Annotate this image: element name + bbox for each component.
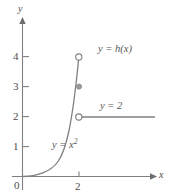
x-axis-arrowhead [150, 173, 157, 179]
label-y-equals-x-squared: y = x2 [52, 140, 77, 151]
y-axis [19, 17, 29, 190]
x-tick-label-2: 2 [75, 181, 81, 192]
y-tick-label-2: 2 [13, 111, 19, 122]
y-tick-label-4: 4 [13, 51, 19, 62]
open-circle-point-2-2 [76, 114, 82, 120]
filled-point-2-3 [76, 84, 81, 89]
open-circle-point-2-4 [76, 54, 82, 60]
origin-label: 0 [14, 180, 20, 191]
label-y-equals-x-squared-exponent: 2 [74, 137, 78, 146]
math-figure: 4 3 2 1 0 2 y x y = h(x) y = 2 y = x2 [0, 0, 169, 195]
graph-canvas [0, 0, 169, 195]
label-y-equals-h-of-x: y = h(x) [98, 44, 132, 55]
y-tick-label-1: 1 [13, 141, 19, 152]
label-y-equals-x-squared-base: y = x [52, 139, 74, 150]
y-axis-arrowhead [19, 17, 25, 24]
x-axis-name: x [159, 170, 163, 180]
y-axis-name: y [18, 4, 22, 14]
label-y-equals-2: y = 2 [100, 101, 122, 112]
parabola-curve [23, 58, 79, 177]
y-tick-label-3: 3 [13, 81, 19, 92]
